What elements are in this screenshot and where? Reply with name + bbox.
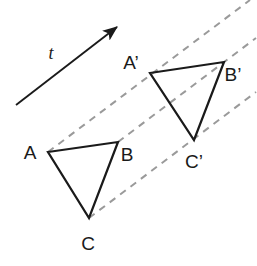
vertex-label-a-prime: A’	[123, 52, 138, 73]
vertex-label-a: A	[24, 142, 37, 163]
vertex-label-b: B	[121, 144, 134, 165]
vertex-label-c-prime: C’	[185, 151, 203, 172]
vertex-label-c: C	[81, 233, 95, 254]
vertex-label-b-prime: B’	[225, 64, 242, 85]
translation-figure: t A B C A’ B’ C’	[0, 0, 257, 266]
